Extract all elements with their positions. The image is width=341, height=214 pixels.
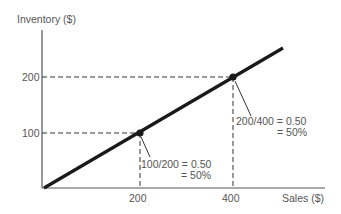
data-point-200 <box>136 129 143 136</box>
x-tick-400: 400 <box>222 192 240 204</box>
x-tick-200: 200 <box>129 192 147 204</box>
annotation-1-line2: = 50% <box>181 169 211 181</box>
data-point-400 <box>229 73 236 80</box>
chart-canvas <box>0 0 341 214</box>
y-tick-100: 100 <box>22 127 40 139</box>
annotation-2-line2: = 50% <box>277 126 307 138</box>
y-tick-200: 200 <box>22 71 40 83</box>
x-axis-label: Sales ($) <box>282 192 324 204</box>
annotation-arrow-1 <box>141 137 150 157</box>
y-axis-label: Inventory ($) <box>17 13 76 25</box>
annotation-arrow-2 <box>235 81 251 116</box>
